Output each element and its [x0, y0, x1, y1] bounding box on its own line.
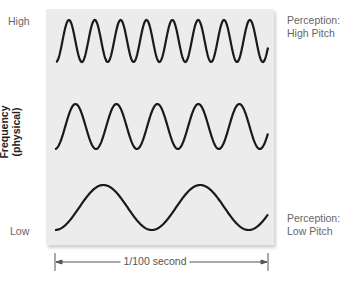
perception-low-label: Perception: Low Pitch	[287, 212, 340, 238]
perception-high-line2: High Pitch	[287, 27, 340, 40]
perception-high-line1: Perception:	[287, 14, 340, 27]
perception-low-line1: Perception:	[287, 212, 340, 225]
medium-frequency-wave	[55, 104, 268, 149]
perception-low-line2: Low Pitch	[287, 225, 340, 238]
perception-high-label: Perception: High Pitch	[287, 14, 340, 40]
high-frequency-wave	[56, 20, 268, 62]
time-span-label: 1/100 second	[120, 255, 189, 267]
waveforms	[0, 0, 349, 281]
low-frequency-wave	[55, 185, 268, 230]
